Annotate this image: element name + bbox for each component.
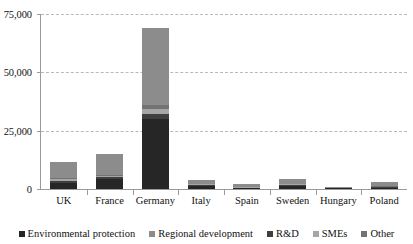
legend-item[interactable]: Other (361, 227, 394, 241)
x-axis-category-label: Poland (370, 192, 399, 210)
plot-area (41, 14, 407, 189)
chart-legend: Environmental protectionRegional develop… (0, 224, 413, 244)
legend-swatch-icon (19, 231, 25, 237)
y-axis-tick: 75,000 (37, 14, 41, 15)
y-axis-tick-label: 50,000 (4, 65, 32, 81)
y-axis-tick-label: 0 (27, 182, 32, 198)
legend-swatch-icon (361, 231, 367, 237)
bar-group[interactable] (96, 154, 123, 189)
legend-item[interactable]: Environmental protection (19, 227, 136, 241)
bar-segment[interactable] (142, 28, 169, 105)
legend-label: R&D (276, 227, 299, 241)
bar-group[interactable] (142, 28, 169, 189)
bar-segment[interactable] (96, 179, 123, 189)
legend-label: Regional development (158, 227, 253, 241)
y-axis-tick-label: 25,000 (4, 124, 32, 140)
x-axis-category-label: France (95, 192, 124, 210)
bar-group[interactable] (371, 182, 398, 189)
legend-item[interactable]: Regional development (149, 227, 253, 241)
bar-group[interactable] (50, 162, 77, 189)
bar-group[interactable] (279, 179, 306, 189)
x-axis-category-label: Spain (235, 192, 259, 210)
legend-item[interactable]: SMEs (313, 227, 348, 241)
x-axis-category-label: Sweden (276, 192, 309, 210)
bar-segment[interactable] (96, 154, 123, 175)
x-axis-category-labels: UKFranceGermanyItalySpainSwedenHungaryPo… (41, 192, 407, 212)
x-axis (41, 189, 407, 190)
y-axis-tick: 25,000 (37, 131, 41, 132)
legend-items: Environmental protectionRegional develop… (19, 227, 395, 241)
x-axis-category-label: Italy (192, 192, 211, 210)
bar-group[interactable] (188, 180, 215, 189)
legend-label: SMEs (322, 227, 348, 241)
legend-label: Other (370, 227, 394, 241)
legend-swatch-icon (313, 231, 319, 237)
x-axis-category-label: Germany (136, 192, 175, 210)
legend-swatch-icon (267, 231, 273, 237)
legend-label: Environmental protection (28, 227, 136, 241)
bars-layer (41, 14, 407, 189)
bar-segment[interactable] (142, 119, 169, 189)
y-axis-tick: 50,000 (37, 72, 41, 73)
y-axis: 025,00050,00075,000 (40, 14, 41, 189)
legend-item[interactable]: R&D (267, 227, 299, 241)
bar-segment[interactable] (50, 162, 77, 178)
stacked-bar-chart: 025,00050,00075,000 UKFranceGermanyItaly… (0, 0, 413, 244)
y-axis-tick-label: 75,000 (4, 7, 32, 23)
x-axis-category-label: Hungary (320, 192, 357, 210)
x-axis-category-label: UK (56, 192, 71, 210)
legend-swatch-icon (149, 231, 155, 237)
